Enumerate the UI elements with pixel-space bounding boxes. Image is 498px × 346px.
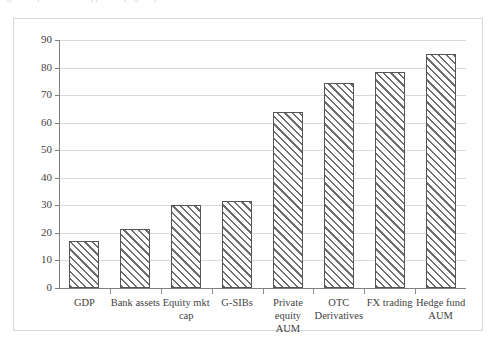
bar-slot xyxy=(59,40,110,289)
bar-slot xyxy=(415,40,466,289)
bar-slot xyxy=(212,40,263,289)
y-tick-label: 50 xyxy=(18,144,52,155)
y-tick-mark xyxy=(55,288,59,289)
y-tick-label: 60 xyxy=(18,117,52,128)
y-tick-mark xyxy=(55,40,59,41)
category-tick xyxy=(313,289,314,294)
y-tick-label: 10 xyxy=(18,254,52,265)
category-tick xyxy=(415,289,416,294)
chart-frame: 0102030405060708090 GDPBank assetsEquity… xyxy=(13,18,483,331)
y-tick-label: 40 xyxy=(18,172,52,183)
y-tick-label: 90 xyxy=(18,34,52,45)
category-tick xyxy=(364,289,365,294)
y-tick-mark xyxy=(55,260,59,261)
bar xyxy=(426,54,456,288)
bar xyxy=(69,241,99,288)
category-label: OTC Derivatives xyxy=(313,296,364,322)
y-tick-label: 20 xyxy=(18,227,52,238)
category-tick xyxy=(161,289,162,294)
bar xyxy=(375,72,405,288)
bar-slot xyxy=(263,40,314,289)
category-label: G-SIBs xyxy=(212,296,263,309)
y-tick-label: 70 xyxy=(18,89,52,100)
category-label: Equity mkt cap xyxy=(161,296,212,322)
category-label: FX trading xyxy=(364,296,415,309)
bar xyxy=(222,201,252,288)
bar xyxy=(273,112,303,288)
y-axis-tick-labels: 0102030405060708090 xyxy=(14,19,52,332)
y-tick-label: 0 xyxy=(18,282,52,293)
bar xyxy=(171,205,201,288)
category-tick xyxy=(263,289,264,294)
category-label: Hedge fund AUM xyxy=(415,296,466,322)
bar xyxy=(120,229,150,288)
y-tick-label: 80 xyxy=(18,62,52,73)
bar xyxy=(324,83,354,288)
y-tick-label: 30 xyxy=(18,199,52,210)
category-label: Bank assets xyxy=(110,296,161,309)
y-tick-mark xyxy=(55,68,59,69)
category-axis-labels: GDPBank assetsEquity mkt capG-SIBsPrivat… xyxy=(59,296,466,332)
y-tick-mark xyxy=(55,95,59,96)
bar-slot xyxy=(110,40,161,289)
category-label: Private equity AUM xyxy=(263,296,314,335)
category-tick xyxy=(110,289,111,294)
clipped-caption-text: figure caption text clipped at page top xyxy=(0,0,498,3)
bar-slot xyxy=(364,40,415,289)
y-tick-mark xyxy=(55,233,59,234)
category-label: GDP xyxy=(59,296,110,309)
bar-series xyxy=(59,40,466,289)
bar-slot xyxy=(161,40,212,289)
y-tick-mark xyxy=(55,178,59,179)
y-tick-mark xyxy=(55,150,59,151)
category-axis-ticks xyxy=(59,289,466,295)
y-tick-mark xyxy=(55,123,59,124)
category-tick xyxy=(212,289,213,294)
bar-slot xyxy=(313,40,364,289)
y-tick-mark xyxy=(55,205,59,206)
